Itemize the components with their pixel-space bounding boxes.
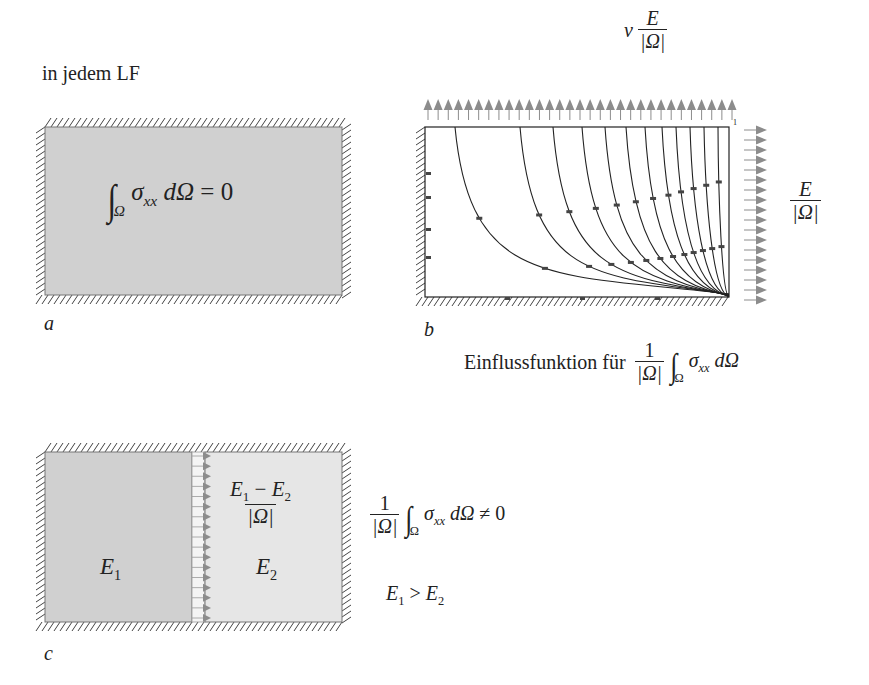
fraction: E1 − E2 |Ω| xyxy=(228,478,293,528)
modulus-symbol: E xyxy=(100,554,114,579)
numerator: E xyxy=(645,8,661,29)
panel-b-caption: Einflussfunktion für 1 |Ω| ∫Ω σxx dΩ xyxy=(464,340,739,384)
denominator: |Ω| xyxy=(245,504,276,528)
integrand-subscript: xx xyxy=(434,514,445,528)
relation: ≠ 0 xyxy=(479,502,505,524)
numerator: 1 xyxy=(378,493,392,514)
minus-sign: − xyxy=(249,477,271,501)
panel-a-equation: ∫Ω σxx dΩ = 0 xyxy=(106,178,233,217)
numerator: E1 − E2 xyxy=(228,478,293,504)
integrand-subscript: xx xyxy=(143,192,157,209)
e2-subscript: 2 xyxy=(438,594,444,608)
integrand: σ xyxy=(131,178,143,205)
denominator: |Ω| xyxy=(635,361,664,384)
e1-symbol: E xyxy=(386,582,398,604)
panel-c-condition: E1 > E2 xyxy=(386,582,444,609)
modulus-subscript: 2 xyxy=(270,567,277,583)
integrand: σ xyxy=(424,502,434,524)
panel-c-left-block xyxy=(45,452,192,622)
e2-subscript: 2 xyxy=(285,489,292,504)
panel-b-right-load-arrows xyxy=(744,126,767,305)
panel-c-interface-load-label: E1 − E2 |Ω| xyxy=(228,478,293,528)
modulus-symbol: E xyxy=(256,554,270,579)
caption-text: Einflussfunktion für xyxy=(464,351,626,373)
panel-c-left-block-label: E1 xyxy=(100,554,121,584)
load-case-label: in jedem LF xyxy=(42,62,140,85)
e2-symbol: E xyxy=(426,582,438,604)
denominator: |Ω| xyxy=(638,29,667,52)
differential: dΩ xyxy=(163,178,194,205)
numerator: E xyxy=(797,178,814,200)
panel-b-top-load-label: ν E |Ω| xyxy=(624,8,667,52)
panel-b-corner-mark: 1 xyxy=(733,118,737,127)
e1-symbol: E xyxy=(230,477,243,501)
differential: dΩ xyxy=(450,502,474,524)
fraction: 1 |Ω| xyxy=(635,340,664,384)
integrand-subscript: xx xyxy=(699,361,710,375)
panel-b-domain xyxy=(425,127,729,297)
fraction: E |Ω| xyxy=(638,8,667,52)
panel-a-tag: a xyxy=(44,312,54,335)
fraction: 1 |Ω| xyxy=(370,493,399,537)
panel-b-right-load-label: E |Ω| xyxy=(790,178,821,224)
denominator: |Ω| xyxy=(370,514,399,537)
relation: = 0 xyxy=(200,178,233,205)
differential: dΩ xyxy=(715,349,739,371)
denominator: |Ω| xyxy=(790,200,821,224)
integral-domain: Ω xyxy=(114,202,125,219)
modulus-subscript: 1 xyxy=(114,567,121,583)
panel-c-tag: c xyxy=(44,642,53,665)
panel-b-top-load-arrows xyxy=(424,99,737,120)
integrand: σ xyxy=(689,349,699,371)
panel-c-result-equation: 1 |Ω| ∫Ω σxx dΩ ≠ 0 xyxy=(370,493,505,537)
e2-symbol: E xyxy=(272,477,285,501)
integral-domain: Ω xyxy=(410,524,419,538)
fraction: E |Ω| xyxy=(790,178,821,224)
numerator: 1 xyxy=(642,340,656,361)
panel-b-tag: b xyxy=(424,318,434,341)
greater-than: > xyxy=(404,582,425,604)
integral-domain: Ω xyxy=(674,371,683,385)
poisson-coef: ν xyxy=(624,19,633,41)
panel-c-right-block-label: E2 xyxy=(256,554,277,584)
